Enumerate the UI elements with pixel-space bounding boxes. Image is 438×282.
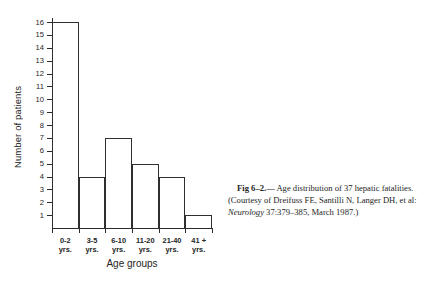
x-axis-tick: [52, 228, 53, 233]
x-axis-category-label: 6-10yrs.: [105, 236, 132, 255]
y-axis-tick-label: 5: [40, 160, 44, 168]
y-axis-tick-label: 11: [36, 83, 44, 91]
y-axis-tick-label: 3: [40, 186, 44, 194]
bar: [79, 177, 106, 229]
category-range: 0-2: [60, 236, 71, 245]
y-axis-tick-label: 13: [36, 57, 44, 65]
x-axis-tick: [105, 228, 106, 233]
bar: [159, 177, 186, 229]
x-axis-category-label: 21-40yrs.: [159, 236, 186, 255]
category-unit: yrs.: [132, 245, 159, 254]
y-axis-tick-label: 10: [36, 96, 44, 104]
bar: [52, 22, 79, 228]
y-axis-tick-label: 2: [40, 199, 44, 207]
y-axis-tick-label: 4: [40, 173, 44, 181]
x-axis-tick: [212, 228, 213, 233]
category-unit: yrs.: [52, 245, 79, 254]
y-axis-tick-label: 7: [40, 135, 44, 143]
y-axis-tick-label: 15: [36, 32, 44, 40]
category-range: 21-40: [163, 236, 182, 245]
y-axis-tick-label: 12: [36, 70, 44, 78]
category-unit: yrs.: [79, 245, 106, 254]
y-axis-tick-label: 8: [40, 122, 44, 130]
y-axis-tick-label: 16: [36, 19, 44, 27]
bar: [105, 138, 132, 228]
x-axis-title: Age groups: [52, 258, 212, 269]
category-range: 11-20: [136, 236, 155, 245]
figure-caption: Fig 6–2.— Age distribution of 37 hepatic…: [228, 183, 426, 219]
caption-journal-name: Neurology: [228, 207, 264, 217]
x-axis-tick: [132, 228, 133, 233]
category-range: 41 +: [191, 236, 206, 245]
x-axis-category-label: 11-20yrs.: [132, 236, 159, 255]
bar: [132, 164, 159, 228]
category-range: 3-5: [87, 236, 98, 245]
caption-figure-number: Fig 6–2.: [237, 183, 266, 193]
y-axis-tick-label: 9: [40, 109, 44, 117]
caption-separator: —: [266, 183, 276, 193]
caption-text-after-journal: 37:379–385, March 1987.): [264, 207, 358, 217]
y-axis-title: Number of patients: [8, 62, 26, 192]
y-axis-tick-label: 6: [40, 147, 44, 155]
y-axis-tick-label: 14: [36, 44, 44, 52]
x-axis-category-label: 41 +yrs.: [185, 236, 212, 255]
chart-plot-area: Number of patients 123456789101112131415…: [0, 0, 225, 282]
category-unit: yrs.: [105, 245, 132, 254]
bar: [185, 215, 212, 228]
category-unit: yrs.: [159, 245, 186, 254]
category-range: 6-10: [111, 236, 126, 245]
figure-container: Number of patients 123456789101112131415…: [0, 0, 438, 282]
y-axis-tick-label: 1: [40, 212, 44, 220]
x-axis-category-label: 3-5yrs.: [79, 236, 106, 255]
x-axis-tick: [79, 228, 80, 233]
x-axis-tick: [185, 228, 186, 233]
category-unit: yrs.: [185, 245, 212, 254]
x-axis-tick: [159, 228, 160, 233]
x-axis-category-label: 0-2yrs.: [52, 236, 79, 255]
